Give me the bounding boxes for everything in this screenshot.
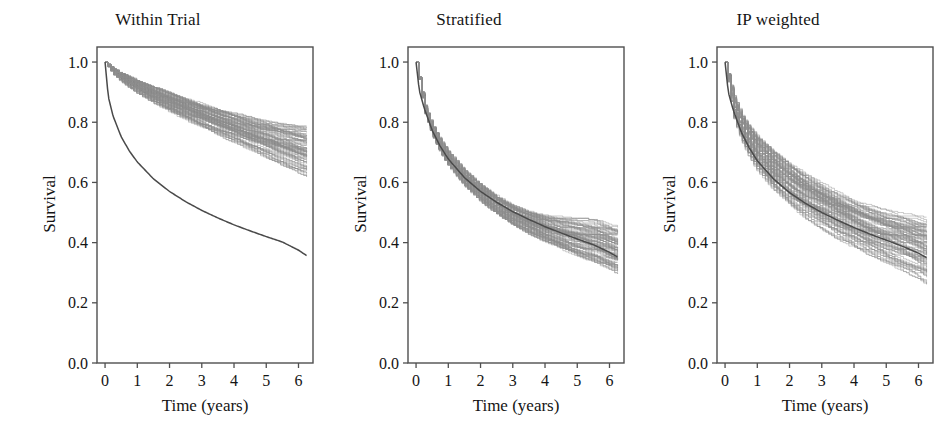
x-tick-label: 5	[262, 372, 270, 389]
x-tick-label: 0	[412, 372, 420, 389]
x-tick-label: 2	[166, 372, 174, 389]
y-tick-label: 0.6	[68, 174, 88, 191]
chart-panel: Within Trial0.00.20.40.60.81.00123456Sur…	[0, 0, 316, 438]
curve-group	[105, 62, 306, 256]
y-tick-label: 0.2	[379, 294, 399, 311]
x-tick-label: 3	[198, 372, 206, 389]
x-tick-label: 1	[133, 372, 141, 389]
x-tick-label: 4	[541, 372, 549, 389]
y-tick-label: 1.0	[68, 54, 88, 71]
chart-panel: Stratified0.00.20.40.60.81.00123456Survi…	[311, 0, 627, 438]
x-tick-label: 3	[509, 372, 517, 389]
x-tick-label: 5	[573, 372, 581, 389]
y-tick-label: 0.4	[688, 234, 708, 251]
x-tick-label: 6	[605, 372, 613, 389]
y-tick-label: 0.6	[688, 174, 708, 191]
y-tick-label: 0.6	[379, 174, 399, 191]
x-tick-label: 0	[101, 372, 109, 389]
y-tick-label: 0.8	[688, 114, 708, 131]
x-tick-label: 3	[818, 372, 826, 389]
x-axis-label: Time (years)	[620, 396, 947, 416]
x-tick-label: 1	[753, 372, 761, 389]
y-tick-label: 1.0	[688, 54, 708, 71]
y-axis-label: Survival	[351, 164, 371, 244]
y-tick-label: 0.8	[379, 114, 399, 131]
y-axis-label: Survival	[660, 164, 680, 244]
survival-curves-figure: Within Trial0.00.20.40.60.81.00123456Sur…	[0, 0, 947, 438]
x-tick-label: 2	[477, 372, 485, 389]
y-tick-label: 0.0	[68, 355, 88, 372]
y-tick-label: 0.8	[68, 114, 88, 131]
y-tick-label: 0.0	[688, 355, 708, 372]
curve-group	[416, 62, 617, 274]
x-tick-label: 6	[294, 372, 302, 389]
x-tick-label: 0	[721, 372, 729, 389]
x-axis-label: Time (years)	[0, 396, 363, 416]
y-tick-label: 0.2	[688, 294, 708, 311]
x-tick-label: 4	[230, 372, 238, 389]
axes-frame	[408, 47, 624, 363]
x-tick-label: 1	[444, 372, 452, 389]
axes-frame	[717, 47, 933, 363]
y-tick-label: 0.4	[379, 234, 399, 251]
x-tick-label: 2	[786, 372, 794, 389]
axes-frame	[97, 47, 313, 363]
x-tick-label: 4	[850, 372, 858, 389]
y-tick-label: 0.0	[379, 355, 399, 372]
curve-group	[725, 62, 926, 284]
y-tick-label: 0.2	[68, 294, 88, 311]
x-tick-label: 6	[914, 372, 922, 389]
chart-panel: IP weighted0.00.20.40.60.81.00123456Surv…	[620, 0, 936, 438]
y-tick-label: 1.0	[379, 54, 399, 71]
y-axis-label: Survival	[40, 164, 60, 244]
x-tick-label: 5	[882, 372, 890, 389]
y-tick-label: 0.4	[68, 234, 88, 251]
